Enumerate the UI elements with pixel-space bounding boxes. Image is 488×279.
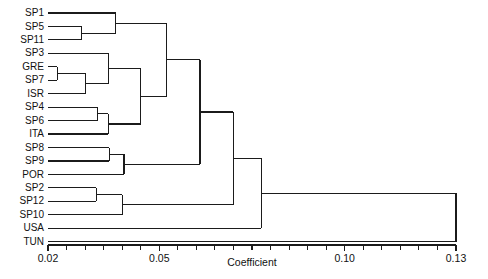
leaf-label-isr: ISR	[27, 88, 44, 99]
dendrogram-leaf-labels: SP1SP5SP11SP3GRESP7ISRSP4SP6ITASP8SP9POR…	[20, 7, 45, 247]
leaf-label-ita: ITA	[29, 128, 44, 139]
leaf-label-sp11: SP11	[20, 34, 44, 45]
tick-label-0.05: 0.05	[149, 252, 170, 264]
tick-label-0.13: 0.13	[446, 252, 467, 264]
leaf-label-sp2: SP2	[25, 182, 44, 193]
dendrogram-plot: SP1SP5SP11SP3GRESP7ISRSP4SP6ITASP8SP9POR…	[0, 0, 488, 279]
leaf-label-sp9: SP9	[25, 155, 44, 166]
leaf-label-usa: USA	[23, 222, 44, 233]
leaf-label-sp8: SP8	[25, 142, 44, 153]
dendrogram-figure: SP1SP5SP11SP3GRESP7ISRSP4SP6ITASP8SP9POR…	[0, 0, 488, 279]
leaf-label-tun: TUN	[23, 236, 44, 247]
leaf-label-sp1: SP1	[25, 7, 44, 18]
leaf-label-gre: GRE	[22, 61, 44, 72]
tick-label-0.10: 0.10	[335, 252, 356, 264]
leaf-label-sp5: SP5	[25, 21, 44, 32]
leaf-label-sp12: SP12	[20, 195, 45, 206]
x-axis-title: Coefficient	[227, 256, 277, 268]
leaf-label-sp3: SP3	[25, 47, 44, 58]
leaf-label-sp10: SP10	[20, 209, 45, 220]
leaf-label-sp7: SP7	[25, 74, 44, 85]
leaf-label-por: POR	[22, 169, 44, 180]
dendrogram-links	[48, 13, 456, 242]
leaf-label-sp4: SP4	[25, 101, 44, 112]
x-axis	[48, 245, 456, 251]
tick-label-0.02: 0.02	[38, 252, 59, 264]
leaf-label-sp6: SP6	[25, 115, 44, 126]
